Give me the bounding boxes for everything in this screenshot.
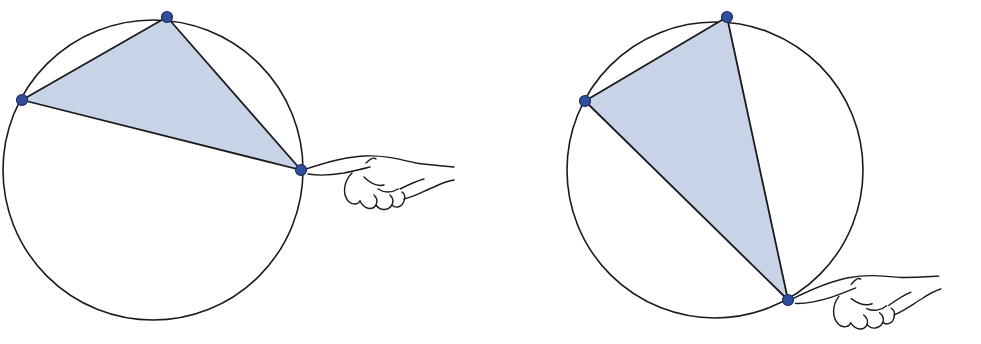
inscribed-triangle-figure: Two circles, each with an inscribed shad…	[0, 0, 981, 344]
inscribed-triangle	[22, 17, 301, 170]
hand-stroke	[887, 292, 912, 305]
hand-stroke	[851, 278, 862, 284]
hand-stroke	[794, 288, 857, 305]
vertex-point	[17, 95, 28, 106]
hand-stroke	[891, 289, 943, 315]
pointing-hand-icon	[306, 156, 454, 210]
moving-vertex-point	[296, 165, 307, 176]
hand-stroke	[392, 192, 405, 207]
hand-stroke	[360, 195, 377, 208]
vertex-point	[162, 12, 173, 23]
hand-stroke	[791, 265, 939, 299]
hand-stroke	[376, 195, 393, 210]
figure-canvas	[0, 0, 981, 344]
hand-stroke	[345, 173, 360, 204]
hand-stroke	[866, 312, 885, 329]
hand-stroke	[850, 315, 869, 331]
hand-stroke	[308, 167, 370, 175]
hand-stroke	[364, 177, 398, 192]
panel-left	[3, 12, 454, 321]
hand-stroke	[400, 179, 424, 189]
vertex-point	[722, 12, 733, 23]
hand-stroke	[366, 158, 376, 163]
vertex-point	[580, 96, 591, 107]
pointing-hand-icon	[791, 265, 945, 339]
hand-stroke	[831, 295, 851, 328]
hand-stroke	[851, 294, 887, 314]
hand-stroke	[306, 156, 454, 169]
panel-right	[567, 12, 945, 339]
moving-vertex-point	[783, 295, 794, 306]
